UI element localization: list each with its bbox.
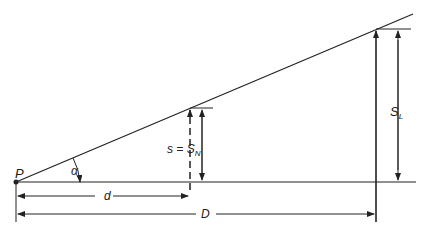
label-near-height-sub: N <box>195 149 201 158</box>
sight-line <box>16 14 413 182</box>
label-D: D <box>201 207 210 221</box>
label-far-height-main: S <box>390 104 399 119</box>
label-near-height-main: s = S <box>167 142 195 156</box>
label-alpha: α <box>71 164 79 178</box>
label-d: d <box>104 189 111 203</box>
label-near-height: s = SN <box>167 142 201 158</box>
label-far-height: SL <box>390 104 403 121</box>
label-p: P <box>15 166 24 181</box>
geometry-diagram: P α d D s = SN SL <box>0 0 431 237</box>
label-far-height-sub: L <box>399 112 403 121</box>
